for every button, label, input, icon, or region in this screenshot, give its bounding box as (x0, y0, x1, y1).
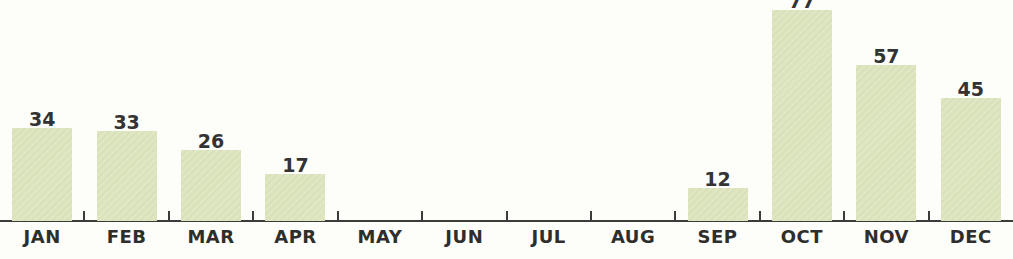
month-label-sep: SEP (675, 227, 759, 247)
month-label-jul: JUL (507, 227, 591, 247)
x-axis-tick (759, 211, 761, 221)
value-label-feb: 33 (84, 113, 168, 132)
value-label-mar: 26 (169, 132, 253, 151)
x-axis-tick (337, 211, 339, 221)
bar-jan (12, 128, 72, 221)
x-axis-tick (168, 211, 170, 221)
bar-dec (941, 98, 1001, 221)
value-label-nov: 57 (844, 47, 928, 66)
month-label-oct: OCT (760, 227, 844, 247)
monthly-bar-chart: 34JAN33FEB26MAR17APRMAYJUNJULAUG12SEP77O… (0, 0, 1013, 259)
x-axis-tick (674, 211, 676, 221)
x-axis-tick (506, 211, 508, 221)
x-axis-tick (421, 211, 423, 221)
month-label-mar: MAR (169, 227, 253, 247)
x-axis-tick (928, 211, 930, 221)
x-axis-tick (83, 211, 85, 221)
bar-oct (772, 10, 832, 221)
month-label-jan: JAN (0, 227, 84, 247)
x-axis-tick (252, 211, 254, 221)
value-label-jan: 34 (0, 110, 84, 129)
month-label-apr: APR (253, 227, 337, 247)
x-axis-tick (590, 211, 592, 221)
bar-nov (856, 65, 916, 221)
bar-mar (181, 150, 241, 221)
bar-apr (265, 174, 325, 221)
month-label-feb: FEB (84, 227, 168, 247)
bar-feb (97, 131, 157, 221)
month-label-may: MAY (338, 227, 422, 247)
month-label-nov: NOV (844, 227, 928, 247)
bar-sep (688, 188, 748, 221)
value-label-dec: 45 (929, 80, 1013, 99)
month-label-aug: AUG (591, 227, 675, 247)
value-label-sep: 12 (675, 170, 759, 189)
x-axis-tick (843, 211, 845, 221)
month-label-dec: DEC (929, 227, 1013, 247)
month-label-jun: JUN (422, 227, 506, 247)
value-label-apr: 17 (253, 156, 337, 175)
value-label-oct: 77 (760, 0, 844, 11)
